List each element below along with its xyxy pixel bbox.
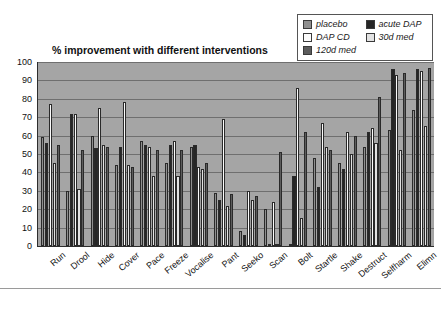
chart-figure: placebo acute DAP DAP CD 30d med 120d me… (0, 0, 441, 309)
bar (53, 163, 56, 246)
legend-label-acute-dap: acute DAP (379, 19, 422, 30)
bar (338, 163, 341, 246)
legend-label-dap-cd: DAP CD (316, 32, 350, 43)
bar (144, 145, 147, 246)
plot-wrapper: 0102030405060708090100 RunDroolHideCover… (0, 62, 441, 262)
bar (74, 114, 77, 246)
bar-group (88, 62, 113, 246)
bar (70, 114, 73, 246)
bar (49, 104, 52, 246)
bar (378, 97, 381, 246)
bar-group (310, 62, 335, 246)
bar-group (63, 62, 88, 246)
y-tick-label: 0 (27, 241, 32, 251)
bar (152, 176, 155, 246)
y-tick-label: 100 (17, 57, 32, 67)
bar (346, 132, 349, 246)
bar (412, 110, 415, 246)
bar (374, 143, 377, 246)
bar (247, 191, 250, 246)
bar (173, 141, 176, 246)
bar (289, 244, 292, 246)
x-tick-label: Run (48, 250, 67, 268)
bar (169, 145, 172, 246)
bar (57, 145, 60, 246)
legend-row: DAP CD 30d med (303, 31, 428, 44)
bar (91, 136, 94, 246)
bar (354, 136, 357, 246)
bar (403, 73, 406, 246)
bar-group (286, 62, 311, 246)
bar (321, 123, 324, 246)
x-tick-label: Elimn (415, 250, 439, 272)
bar (180, 150, 183, 246)
bar (131, 167, 134, 246)
bar (391, 69, 394, 246)
bar (45, 143, 48, 246)
bar (218, 200, 221, 246)
bar-group (335, 62, 360, 246)
x-tick-label: Drool (69, 250, 92, 271)
bar (428, 68, 431, 246)
bar (239, 231, 242, 246)
bar (81, 150, 84, 246)
bar (193, 145, 196, 246)
x-tick-label: Bolt (296, 250, 314, 268)
bar (201, 169, 204, 246)
bar (363, 147, 366, 246)
bar (350, 154, 353, 246)
y-axis: 0102030405060708090100 (0, 62, 34, 246)
bar (275, 244, 278, 246)
bar (371, 128, 374, 246)
bar (148, 147, 151, 246)
bar (251, 200, 254, 246)
bar (127, 165, 130, 246)
bar-groups (38, 62, 434, 246)
bar (272, 202, 275, 246)
legend-swatch-placebo (303, 20, 312, 29)
bar (115, 165, 118, 246)
x-tick-label: Hide (96, 250, 117, 270)
legend-row: placebo acute DAP (303, 18, 428, 31)
y-tick-label: 90 (22, 75, 32, 85)
legend-item-30d-med: 30d med (366, 32, 429, 43)
bar (214, 193, 217, 246)
bar-group (187, 62, 212, 246)
legend-label-30d-med: 30d med (379, 32, 414, 43)
bar (395, 75, 398, 246)
bar (106, 147, 109, 246)
bar (264, 209, 267, 246)
plot-area (37, 62, 434, 247)
x-tick-label: Pant (220, 250, 241, 270)
bar (156, 150, 159, 246)
bar (66, 191, 69, 246)
y-tick-label: 10 (22, 223, 32, 233)
bar (197, 167, 200, 246)
x-axis: RunDroolHideCoverPaceFreezeVocalisePantS… (37, 250, 433, 309)
legend-item-120d-med: 120d med (303, 45, 428, 56)
bar (279, 152, 282, 246)
bar (222, 119, 225, 246)
legend-swatch-acute-dap (366, 20, 375, 29)
bar (255, 196, 258, 246)
y-tick-label: 60 (22, 131, 32, 141)
legend-label-120d-med: 120d med (316, 45, 356, 56)
bar (399, 150, 402, 246)
bar (424, 126, 427, 246)
footer-divider (0, 288, 441, 289)
bar-group (236, 62, 261, 246)
y-tick-label: 20 (22, 204, 32, 214)
bar (313, 158, 316, 246)
x-tick-label: Cover (116, 250, 141, 273)
bar (176, 176, 179, 246)
y-tick-label: 30 (22, 186, 32, 196)
bar-group (162, 62, 187, 246)
bar (119, 147, 122, 246)
bar (292, 176, 295, 246)
bar (243, 235, 246, 246)
legend-swatch-120d-med (303, 46, 312, 55)
bar (205, 163, 208, 246)
bar (342, 169, 345, 246)
bar (300, 218, 303, 246)
bar (102, 145, 105, 246)
